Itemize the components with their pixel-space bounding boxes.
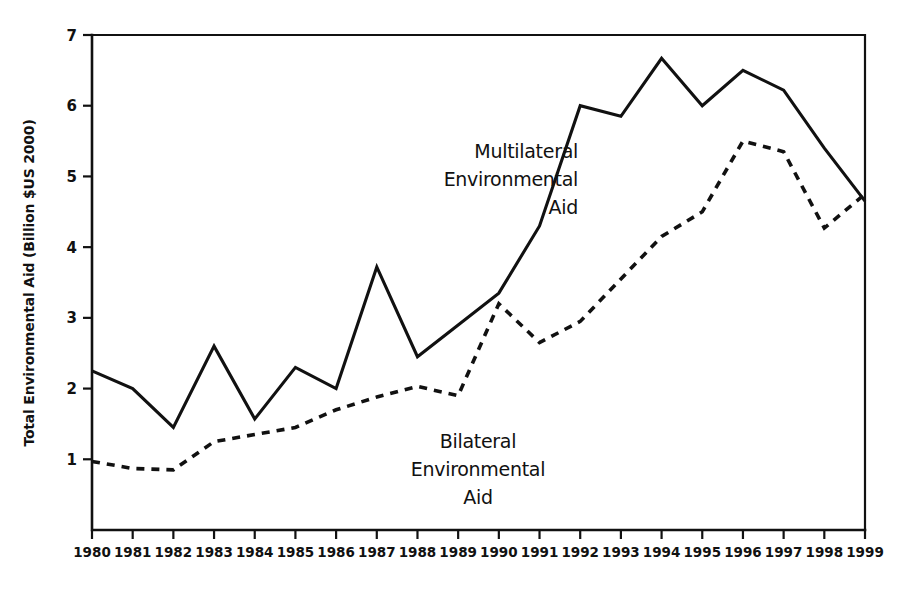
x-tick-label: 1999 <box>846 544 884 560</box>
x-tick-label: 1981 <box>114 544 152 560</box>
multilateral-label-line: Aid <box>549 196 578 218</box>
y-tick-label: 1 <box>67 451 77 469</box>
y-tick-label: 6 <box>67 97 77 115</box>
x-tick-label: 1982 <box>155 544 193 560</box>
x-tick-label: 1987 <box>358 544 396 560</box>
x-axis-ticks <box>92 530 865 539</box>
x-tick-label: 1984 <box>236 544 274 560</box>
x-tick-label: 1992 <box>561 544 599 560</box>
x-tick-label: 1993 <box>602 544 640 560</box>
x-tick-label: 1998 <box>806 544 844 560</box>
chart-annotations: MultilateralEnvironmentalAidBilateralEnv… <box>411 140 578 508</box>
x-tick-label: 1989 <box>439 544 477 560</box>
multilateral-label: MultilateralEnvironmentalAid <box>444 140 578 218</box>
x-tick-label: 1991 <box>521 544 559 560</box>
bilateral-label-line: Aid <box>463 486 492 508</box>
series-line-dashed <box>92 141 865 470</box>
multilateral-label-line: Multilateral <box>474 140 578 162</box>
chart-series <box>92 58 865 470</box>
bilateral-label-line: Environmental <box>411 458 545 480</box>
axis-lines <box>92 35 865 530</box>
x-tick-label: 1986 <box>317 544 355 560</box>
x-tick-label: 1988 <box>399 544 437 560</box>
y-tick-label: 3 <box>67 309 77 327</box>
x-tick-label: 1995 <box>683 544 721 560</box>
x-tick-label: 1996 <box>724 544 762 560</box>
multilateral-label-line: Environmental <box>444 168 578 190</box>
x-tick-label: 1983 <box>195 544 233 560</box>
y-tick-label: 4 <box>67 239 77 257</box>
y-tick-label: 2 <box>67 380 77 398</box>
y-axis-title: Total Environmental Aid (Billion $US 200… <box>21 119 37 446</box>
y-axis-ticks <box>83 35 92 459</box>
y-tick-label: 7 <box>67 27 77 45</box>
bilateral-label: BilateralEnvironmentalAid <box>411 430 545 508</box>
x-tick-label: 1997 <box>765 544 803 560</box>
x-tick-label: 1990 <box>480 544 518 560</box>
x-tick-label: 1985 <box>277 544 315 560</box>
bilateral-label-line: Bilateral <box>440 430 516 452</box>
y-tick-label: 5 <box>67 168 77 186</box>
x-axis-tick-labels: 1980198119821983198419851986198719881989… <box>73 544 884 560</box>
line-chart: 1234567 19801981198219831984198519861987… <box>0 0 913 593</box>
plot-frame <box>92 35 865 530</box>
y-axis-title-text: Total Environmental Aid (Billion $US 200… <box>21 119 37 446</box>
x-tick-label: 1994 <box>643 544 681 560</box>
y-axis-tick-labels: 1234567 <box>67 27 77 469</box>
x-tick-label: 1980 <box>73 544 111 560</box>
series-line-solid <box>92 58 865 427</box>
chart-figure: 1234567 19801981198219831984198519861987… <box>0 0 913 593</box>
